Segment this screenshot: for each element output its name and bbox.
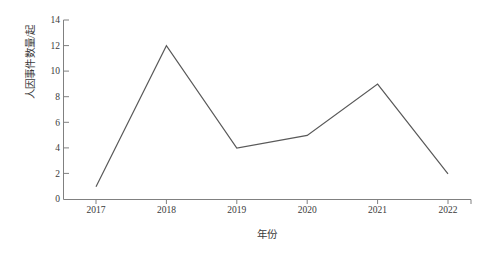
x-tick-label: 2022 (423, 205, 473, 216)
x-axis-title: 年份 (62, 226, 472, 241)
x-tick-label: 2020 (282, 205, 332, 216)
x-axis-tick-labels: 2017 2018 2019 2020 2021 2022 (0, 205, 487, 219)
data-series-line (96, 46, 448, 187)
x-axis-ticks (96, 200, 471, 205)
x-tick-label: 2017 (71, 205, 121, 216)
chart-figure: 人因事件数量/起 14 12 10 8 6 4 2 0 (0, 0, 487, 256)
x-tick-label: 2018 (141, 205, 191, 216)
y-axis-ticks (64, 20, 70, 173)
x-tick-label: 2019 (212, 205, 262, 216)
x-tick-label: 2021 (353, 205, 403, 216)
